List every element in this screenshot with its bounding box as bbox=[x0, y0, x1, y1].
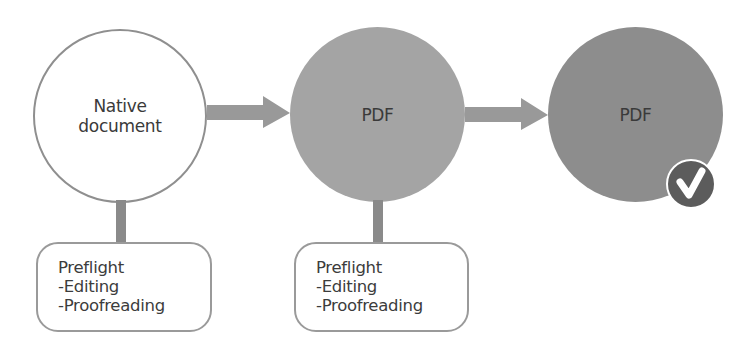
note-line: -Editing bbox=[316, 277, 467, 296]
note-box-native: Preflight -Editing -Proofreading bbox=[36, 242, 212, 332]
note-line: -Proofreading bbox=[58, 296, 210, 315]
connector-line bbox=[373, 200, 383, 244]
note-line: Preflight bbox=[58, 258, 210, 277]
note-line: -Proofreading bbox=[316, 296, 467, 315]
node-native-document: Native document bbox=[33, 29, 207, 203]
connector-line bbox=[116, 200, 126, 244]
arrow-right-icon bbox=[207, 96, 291, 130]
arrow-right-icon bbox=[465, 98, 549, 132]
note-line: -Editing bbox=[58, 277, 210, 296]
node-pdf-intermediate: PDF bbox=[290, 27, 465, 202]
note-box-pdf: Preflight -Editing -Proofreading bbox=[294, 242, 469, 332]
node-label: PDF bbox=[361, 105, 393, 125]
note-line: Preflight bbox=[316, 258, 467, 277]
node-label-line: document bbox=[78, 116, 161, 136]
node-label: PDF bbox=[619, 105, 651, 125]
check-icon bbox=[668, 161, 714, 207]
approved-badge bbox=[666, 159, 716, 209]
node-label-line: Native bbox=[78, 96, 161, 116]
